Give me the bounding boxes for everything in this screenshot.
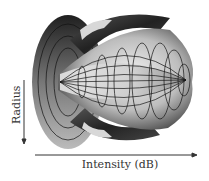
pattern-surface-3d [0, 0, 209, 181]
intensity-pattern-figure: Radius Intensity (dB) [0, 0, 209, 181]
intensity-axis-label: Intensity (dB) [70, 158, 170, 172]
radius-axis-label: Radius [10, 96, 24, 124]
intensity-axis-arrow [35, 153, 197, 157]
